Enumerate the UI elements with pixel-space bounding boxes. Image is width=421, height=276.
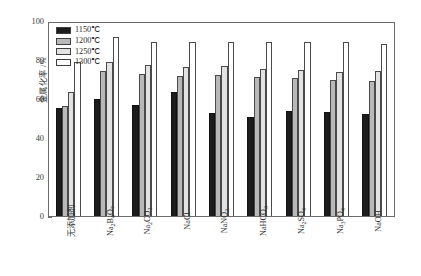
chart-figure: 金属化率 /% 020406080100 无添加剂Na2B4O7Na2CO3Na… bbox=[0, 0, 421, 276]
legend-label: 1300℃ bbox=[75, 58, 100, 66]
legend-swatch bbox=[56, 59, 71, 66]
bar-group bbox=[164, 23, 202, 216]
bar bbox=[381, 44, 387, 216]
x-tick-text: Na3PO4 bbox=[337, 208, 345, 234]
x-tick-text: NaNO3 bbox=[222, 209, 230, 233]
x-tick-text: Na2B4O7 bbox=[107, 206, 115, 236]
bar-group bbox=[279, 23, 317, 216]
legend-label: 1200℃ bbox=[75, 37, 100, 45]
bar-group bbox=[356, 23, 394, 216]
x-tick-text: Na2CO3 bbox=[145, 208, 153, 235]
bar bbox=[151, 42, 157, 216]
legend-item: 1150℃ bbox=[56, 26, 100, 35]
legend-swatch bbox=[56, 27, 71, 34]
bar-group bbox=[317, 23, 355, 216]
bar bbox=[266, 42, 272, 216]
legend-item: 1250℃ bbox=[56, 47, 100, 56]
bar bbox=[74, 62, 80, 216]
x-tick-text: 无添加剂 bbox=[68, 205, 76, 237]
bar-group bbox=[241, 23, 279, 216]
y-tick-value: 60 bbox=[36, 96, 48, 104]
bar-group bbox=[202, 23, 240, 216]
x-tick-text: NaHCO3 bbox=[260, 206, 268, 236]
legend-swatch bbox=[56, 48, 71, 55]
legend-label: 1250℃ bbox=[75, 48, 100, 56]
y-tick-value: 100 bbox=[31, 18, 48, 26]
x-tick-text: NaOH bbox=[375, 210, 383, 231]
bar bbox=[228, 42, 234, 216]
bars-layer bbox=[49, 23, 394, 216]
y-tick-value: 0 bbox=[40, 213, 48, 221]
y-tick-mark bbox=[48, 217, 52, 218]
legend-item: 1300℃ bbox=[56, 58, 100, 67]
y-tick-value: 40 bbox=[36, 135, 48, 143]
bar bbox=[304, 42, 310, 216]
legend-swatch bbox=[56, 38, 71, 45]
y-axis-title: 金属化率 /% bbox=[36, 35, 48, 125]
bar bbox=[343, 42, 349, 216]
y-tick-value: 20 bbox=[36, 174, 48, 182]
bar bbox=[113, 37, 119, 216]
x-tick-text: NaCl bbox=[183, 212, 191, 229]
x-axis-labels: 无添加剂Na2B4O7Na2CO3NaClNaNO3NaHCO3Na2SO4Na… bbox=[49, 219, 394, 275]
bar-group bbox=[126, 23, 164, 216]
chart-legend: 1150℃1200℃1250℃1300℃ bbox=[56, 26, 100, 67]
bar bbox=[189, 42, 195, 216]
x-tick-text: Na2SO4 bbox=[298, 208, 306, 234]
legend-label: 1150℃ bbox=[75, 26, 100, 34]
legend-item: 1200℃ bbox=[56, 37, 100, 46]
y-tick-value: 80 bbox=[36, 57, 48, 65]
